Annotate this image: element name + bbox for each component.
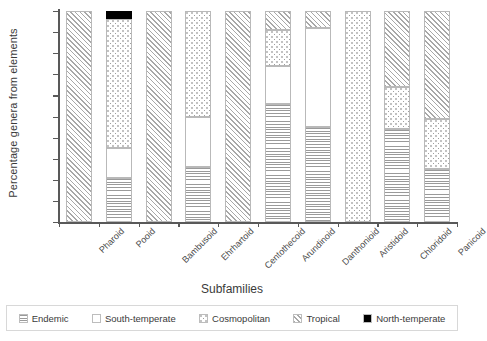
chart-legend: EndemicSouth-temperateCosmopolitanTropic…	[6, 305, 458, 331]
y-tick-mark	[53, 117, 58, 118]
x-tick-label: Chloridoid	[418, 226, 454, 262]
bar-segment-tropical	[305, 11, 331, 28]
legend-swatch-icon	[92, 314, 101, 323]
bar-segment-cosmopolitan	[185, 11, 211, 117]
bar-segment-cosmopolitan	[424, 119, 450, 170]
bar-aristidoid	[345, 11, 371, 222]
legend-swatch-icon	[293, 314, 302, 323]
legend-swatch-icon	[19, 314, 28, 323]
bar-danthonioid	[305, 11, 331, 222]
bar-arundinoid	[265, 11, 291, 222]
y-tick-mark	[53, 159, 58, 160]
bar-segment-cosmopolitan	[384, 87, 410, 129]
bar-pooid	[106, 11, 132, 222]
bar-chloridoid	[384, 11, 410, 222]
x-tick-mark	[218, 222, 219, 227]
x-tick-mark	[377, 222, 378, 227]
legend-label: North-temperate	[376, 313, 445, 324]
x-tick-label: Pharoid	[97, 226, 126, 255]
x-axis-title: Subfamilies	[0, 282, 464, 296]
x-tick-label: Panicoid	[456, 226, 487, 257]
x-tick-label: Danthonioid	[341, 226, 382, 267]
legend-label: Tropical	[306, 313, 339, 324]
x-tick-label: Ehrhartoid	[219, 226, 255, 262]
bar-segment-endemic	[384, 129, 410, 222]
x-tick-label: Pooid	[134, 226, 157, 249]
bar-segment-cosmopolitan	[106, 19, 132, 148]
bar-segment-endemic	[305, 127, 331, 222]
bar-segment-south-temperate	[265, 66, 291, 104]
bar-segment-tropical	[146, 11, 172, 222]
x-tick-mark	[258, 222, 259, 227]
bar-centothecoid	[225, 11, 251, 222]
legend-label: Cosmopolitan	[212, 313, 270, 324]
legend-item-north-temperate[interactable]: North-temperate	[363, 313, 445, 324]
bar-segment-south-temperate	[185, 117, 211, 168]
legend-label: South-temperate	[105, 313, 176, 324]
legend-item-tropical[interactable]: Tropical	[293, 313, 339, 324]
bar-segment-tropical	[66, 11, 92, 222]
bar-segment-south-temperate	[106, 148, 132, 178]
legend-swatch-icon	[363, 314, 372, 323]
bar-segment-endemic	[185, 167, 211, 222]
y-tick-mark	[53, 201, 58, 202]
x-tick-label: Bambusoid	[180, 226, 219, 265]
bar-segment-tropical	[424, 11, 450, 119]
bar-segment-endemic	[424, 169, 450, 222]
x-tick-mark	[178, 222, 179, 227]
bar-panicoid	[424, 11, 450, 222]
x-tick-mark	[457, 222, 458, 227]
y-tick-mark	[53, 95, 58, 96]
bar-ehrhartoid	[185, 11, 211, 222]
bar-segment-north-temperate	[106, 11, 132, 19]
x-tick-mark	[99, 222, 100, 227]
y-tick-mark	[53, 222, 58, 223]
bar-segment-tropical	[225, 11, 251, 222]
bar-segment-endemic	[265, 104, 291, 222]
bar-bambusoid	[146, 11, 172, 222]
bar-segment-tropical	[384, 11, 410, 87]
y-tick-mark	[53, 74, 58, 75]
bar-segment-south-temperate	[305, 28, 331, 127]
y-tick-mark	[53, 11, 58, 12]
bar-segment-cosmopolitan	[265, 30, 291, 66]
y-tick-mark	[53, 138, 58, 139]
bar-segment-endemic	[106, 178, 132, 222]
legend-swatch-icon	[199, 314, 208, 323]
x-tick-mark	[59, 222, 60, 227]
x-tick-mark	[338, 222, 339, 227]
y-tick-mark	[53, 180, 58, 181]
bar-pharoid	[66, 11, 92, 222]
x-tick-label: Aristidoid	[377, 226, 410, 259]
legend-label: Endemic	[32, 313, 69, 324]
legend-item-endemic[interactable]: Endemic	[19, 313, 69, 324]
legend-item-south-temperate[interactable]: South-temperate	[92, 313, 176, 324]
legend-item-cosmopolitan[interactable]: Cosmopolitan	[199, 313, 270, 324]
x-tick-mark	[139, 222, 140, 227]
plot-area	[59, 11, 457, 222]
y-tick-mark	[53, 32, 58, 33]
x-tick-label: Centothecoid	[262, 226, 307, 271]
bar-segment-cosmopolitan	[345, 11, 371, 222]
y-axis-title: Percentage genera from elements	[7, 13, 19, 213]
bar-segment-tropical	[265, 11, 291, 30]
y-tick-mark	[53, 53, 58, 54]
x-tick-mark	[417, 222, 418, 227]
